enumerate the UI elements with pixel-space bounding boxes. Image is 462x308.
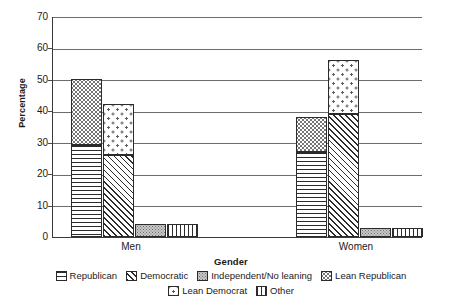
- legend-row-1: Republican Democratic Independent/No lea…: [0, 270, 462, 282]
- bar-women-democratic-stack: [328, 60, 359, 237]
- y-tick-label: 70: [22, 12, 48, 22]
- bar-chart: Percentage 70 60 50 40 30 20 10 0: [0, 0, 462, 308]
- legend-row-2: Lean Democrat Other: [0, 285, 462, 297]
- legend-label: Other: [270, 285, 294, 297]
- legend-item-lean-democrat: Lean Democrat: [168, 285, 247, 297]
- bar-men-other: [167, 224, 198, 237]
- legend-item-independent: Independent/No leaning: [197, 270, 312, 282]
- legend-item-other: Other: [256, 285, 294, 297]
- legend-swatch-fine-dots-icon: [321, 271, 332, 281]
- x-tick-label-men: Men: [91, 241, 171, 252]
- legend-label: Lean Republican: [335, 270, 406, 282]
- bar-women-republican-stack: [296, 117, 327, 237]
- segment-democratic: [103, 155, 134, 237]
- segment-lean-democrat: [328, 60, 359, 114]
- segment-lean-republican: [71, 79, 102, 145]
- segment-other: [392, 228, 423, 238]
- gridline-60: [53, 49, 422, 50]
- legend-swatch-horizontal-lines-icon: [56, 271, 67, 281]
- y-tick-label: 60: [22, 43, 48, 53]
- legend-label: Democratic: [140, 270, 188, 282]
- legend-swatch-sparse-dots-icon: [168, 286, 179, 296]
- legend-label: Independent/No leaning: [211, 270, 312, 282]
- legend-swatch-gray-stipple-icon: [197, 271, 208, 281]
- bar-men-republican-stack: [71, 79, 102, 237]
- segment-lean-democrat: [103, 104, 134, 155]
- y-tick-label: 20: [22, 169, 48, 179]
- y-tick-label: 10: [22, 201, 48, 211]
- segment-democratic: [328, 114, 359, 237]
- bar-men-democratic-stack: [103, 104, 134, 237]
- y-tick-label: 40: [22, 106, 48, 116]
- legend-swatch-vertical-lines-icon: [256, 286, 267, 296]
- segment-republican: [296, 152, 327, 237]
- legend-swatch-diagonal-hatch-icon: [126, 271, 137, 281]
- x-axis-title: Gender: [0, 256, 462, 267]
- bar-women-independent: [360, 228, 391, 238]
- legend-item-lean-republican: Lean Republican: [321, 270, 406, 282]
- bar-men-independent: [135, 224, 166, 237]
- legend-label: Republican: [70, 270, 118, 282]
- y-tick-label: 50: [22, 75, 48, 85]
- legend-label: Lean Democrat: [182, 285, 247, 297]
- y-tick-label: 30: [22, 138, 48, 148]
- segment-other: [167, 224, 198, 237]
- segment-independent: [135, 224, 166, 237]
- legend-item-democratic: Democratic: [126, 270, 188, 282]
- bar-women-other: [392, 228, 423, 238]
- plot-area: [52, 17, 422, 238]
- legend-item-republican: Republican: [56, 270, 118, 282]
- segment-republican: [71, 145, 102, 237]
- gridline-70: [53, 17, 422, 18]
- segment-lean-republican: [296, 117, 327, 152]
- gridline-50: [53, 80, 422, 81]
- y-tick-label: 0: [22, 232, 48, 242]
- segment-independent: [360, 228, 391, 238]
- x-tick-label-women: Women: [316, 241, 396, 252]
